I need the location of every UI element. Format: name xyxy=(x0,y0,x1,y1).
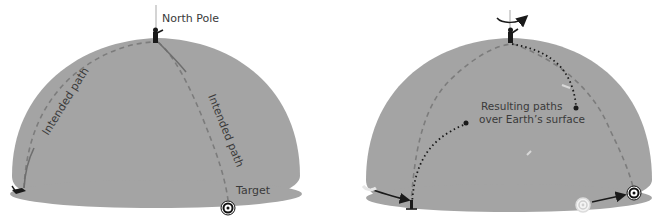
resulting-paths-label-line2: over Earth’s surface xyxy=(479,113,585,125)
resulting-path-end-right xyxy=(574,106,579,111)
rotation-arrow-icon xyxy=(497,17,526,22)
left-panel: North Pole Intended path Intended path T… xyxy=(10,5,302,215)
target-icon xyxy=(221,201,235,215)
coriolis-diagram: North Pole Intended path Intended path T… xyxy=(0,0,659,224)
north-pole-label: North Pole xyxy=(162,12,219,25)
resulting-paths-label-line1: Resulting paths xyxy=(481,100,562,112)
original-target-icon xyxy=(576,198,590,212)
target-label: Target xyxy=(235,184,271,197)
moved-target-icon xyxy=(627,186,641,200)
right-panel: Resulting paths over Earth’s surface xyxy=(363,10,652,212)
resulting-path-end-left xyxy=(464,121,469,126)
